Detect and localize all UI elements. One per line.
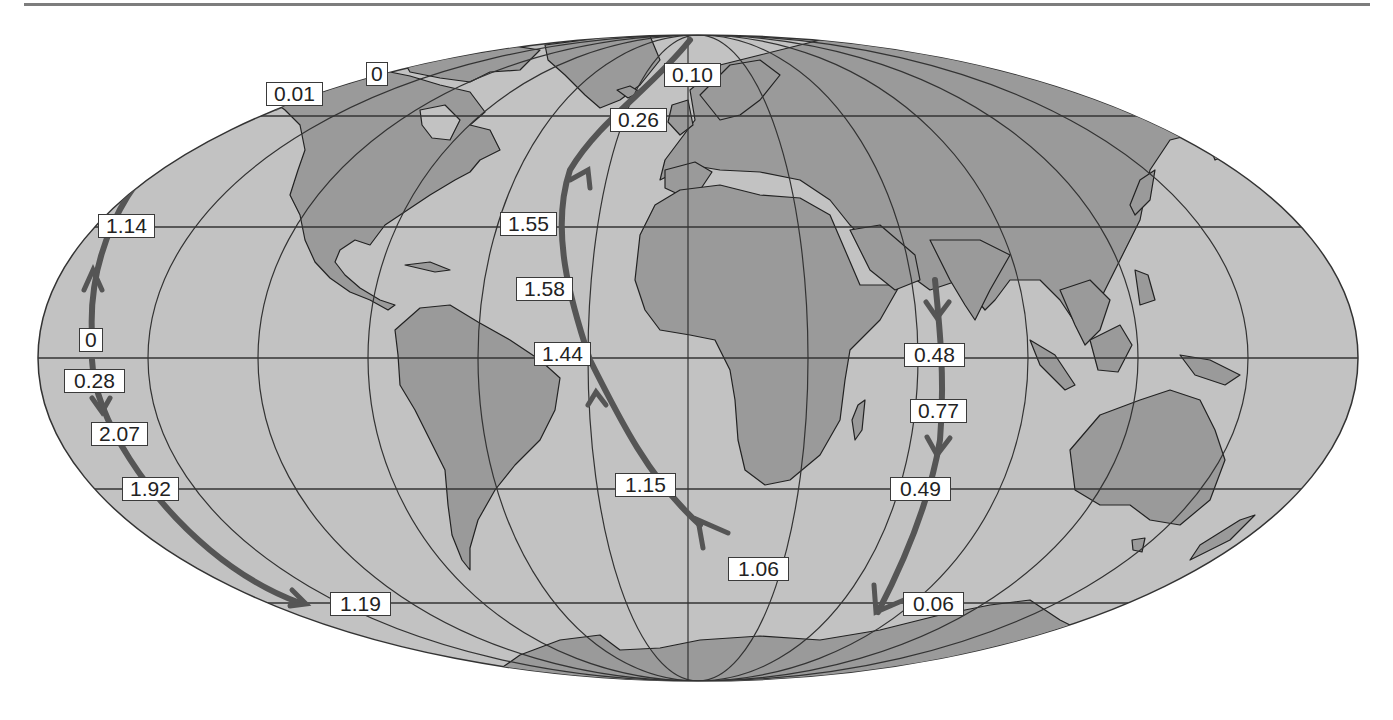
value-label: 0.26 <box>610 108 667 132</box>
value-label: 1.58 <box>516 277 573 301</box>
value-label: 0 <box>366 62 388 86</box>
value-label: 1.06 <box>728 557 789 581</box>
value-label: 0.06 <box>903 592 964 616</box>
value-label: 0.28 <box>64 369 125 393</box>
value-label: 0.49 <box>890 477 951 501</box>
value-label: 0.48 <box>904 343 965 367</box>
world-map <box>0 0 1393 720</box>
value-label: 1.19 <box>330 592 391 616</box>
value-label: 0 <box>79 328 103 352</box>
value-label: 1.55 <box>500 212 557 236</box>
value-label: 0.10 <box>664 63 721 87</box>
value-label: 1.14 <box>98 214 155 238</box>
value-label: 1.44 <box>534 342 591 366</box>
value-label: 0.77 <box>910 399 967 423</box>
value-label: 2.07 <box>91 422 148 446</box>
value-label: 1.15 <box>615 473 676 497</box>
tasmania <box>1132 538 1145 552</box>
value-label: 1.92 <box>122 477 179 501</box>
value-label: 0.01 <box>266 82 323 106</box>
